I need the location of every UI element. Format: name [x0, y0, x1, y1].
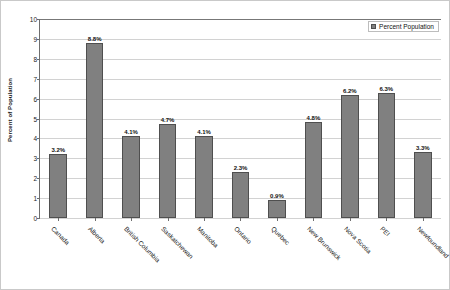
x-tick-mark	[168, 218, 169, 221]
bar-value-label: 3.2%	[51, 147, 65, 153]
x-tick-mark	[131, 218, 132, 221]
x-tick-mark	[350, 218, 351, 221]
x-axis-category-label: Alberta	[87, 225, 107, 245]
bar-value-label: 6.3%	[379, 86, 393, 92]
bar-value-label: 4.1%	[124, 129, 138, 135]
x-axis-labels: CanadaAlbertaBritish ColumbiaSaskatchewa…	[39, 223, 441, 289]
bar[interactable]: 3.2%	[49, 154, 66, 218]
bars-layer: 3.2%8.8%4.1%4.7%4.1%2.3%0.9%4.8%6.2%6.3%…	[40, 19, 441, 218]
y-tick-mark	[37, 218, 40, 219]
x-label-slot: Saskatchewan	[149, 223, 186, 289]
bar[interactable]: 4.7%	[159, 124, 176, 218]
bar[interactable]: 2.3%	[232, 172, 249, 218]
x-tick-mark	[313, 218, 314, 221]
y-axis-title-label: Percent of Population	[7, 78, 13, 142]
bar-slot: 4.7%	[149, 19, 185, 218]
x-label-slot: Newfoundland	[404, 223, 441, 289]
x-tick-mark	[95, 218, 96, 221]
bar[interactable]: 8.8%	[86, 43, 103, 218]
plot-area: 012345678910 3.2%8.8%4.1%4.7%4.1%2.3%0.9…	[39, 19, 441, 219]
x-axis-category-label: Ontario	[233, 225, 253, 245]
bar-value-label: 4.7%	[161, 117, 175, 123]
x-label-slot: New Brunswick	[295, 223, 332, 289]
bar[interactable]: 3.3%	[414, 152, 431, 218]
bar-slot: 4.1%	[113, 19, 149, 218]
y-tick-label: 10	[30, 16, 37, 23]
bar-value-label: 3.3%	[416, 145, 430, 151]
bar[interactable]: 4.1%	[122, 136, 139, 218]
x-axis-category-label: Canada	[50, 225, 71, 246]
x-label-slot: Manitoba	[185, 223, 222, 289]
bar-slot: 6.2%	[332, 19, 368, 218]
x-label-slot: Ontario	[222, 223, 259, 289]
x-label-slot: Quebec	[258, 223, 295, 289]
x-tick-mark	[423, 218, 424, 221]
y-tick-label: 9	[33, 35, 37, 42]
y-tick-label: 8	[33, 55, 37, 62]
x-axis-category-label: Newfoundland	[416, 225, 450, 259]
y-tick-label: 0	[33, 215, 37, 222]
x-label-slot: British Columbia	[112, 223, 149, 289]
bar[interactable]: 6.3%	[378, 93, 395, 218]
bar-slot: 3.3%	[405, 19, 441, 218]
y-tick-label: 3	[33, 155, 37, 162]
x-label-slot: PEI	[368, 223, 405, 289]
bar-value-label: 6.2%	[343, 88, 357, 94]
bar-value-label: 0.9%	[270, 193, 284, 199]
bar-slot: 4.1%	[186, 19, 222, 218]
x-tick-mark	[386, 218, 387, 221]
x-tick-mark	[204, 218, 205, 221]
x-tick-mark	[277, 218, 278, 221]
bar-slot: 0.9%	[259, 19, 295, 218]
y-tick-label: 4	[33, 135, 37, 142]
bar-value-label: 4.1%	[197, 129, 211, 135]
x-axis-category-label: Quebec	[270, 225, 291, 246]
bar[interactable]: 4.8%	[305, 122, 322, 218]
y-tick-label: 2	[33, 175, 37, 182]
legend-entry-label: Percent Population	[379, 23, 434, 30]
x-label-slot: Alberta	[76, 223, 113, 289]
bar-slot: 8.8%	[76, 19, 112, 218]
bar-value-label: 2.3%	[234, 165, 248, 171]
bar[interactable]: 4.1%	[195, 136, 212, 218]
legend: Percent Population	[368, 21, 439, 32]
y-tick-label: 1	[33, 195, 37, 202]
bar-value-label: 8.8%	[88, 36, 102, 42]
y-tick-label: 5	[33, 115, 37, 122]
bar-slot: 6.3%	[368, 19, 404, 218]
x-tick-mark	[58, 218, 59, 221]
bar[interactable]: 6.2%	[341, 95, 358, 218]
y-axis-title: Percent of Population	[3, 1, 17, 219]
y-tick-label: 6	[33, 95, 37, 102]
y-tick-label: 7	[33, 75, 37, 82]
x-label-slot: Nova Scotia	[331, 223, 368, 289]
x-axis-category-label: Manitoba	[197, 225, 221, 249]
bar-slot: 4.8%	[295, 19, 331, 218]
bar-slot: 2.3%	[222, 19, 258, 218]
bar-slot: 3.2%	[40, 19, 76, 218]
x-label-slot: Canada	[39, 223, 76, 289]
x-tick-mark	[240, 218, 241, 221]
bar[interactable]: 0.9%	[268, 200, 285, 218]
x-axis-category-label: PEI	[379, 225, 391, 237]
bar-chart: Percent of Population 012345678910 3.2%8…	[0, 0, 450, 290]
bar-value-label: 4.8%	[307, 115, 321, 121]
legend-swatch-icon	[371, 24, 376, 29]
